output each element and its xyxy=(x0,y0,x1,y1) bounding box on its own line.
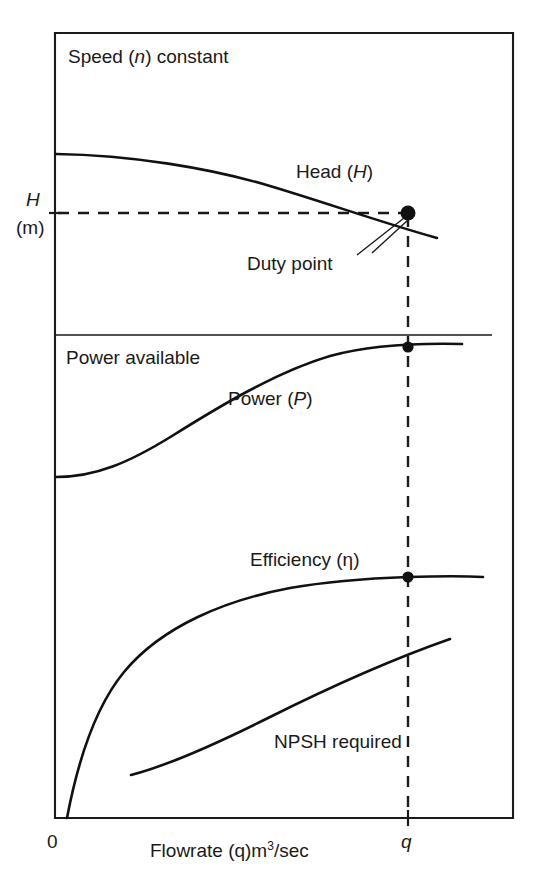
efficiency-curve xyxy=(67,576,483,818)
y-axis-label-symbol: H xyxy=(26,189,40,210)
npsh-label: NPSH required xyxy=(274,731,402,752)
x-axis-label-post: /sec xyxy=(274,840,309,861)
duty-point-label: Duty point xyxy=(247,253,333,274)
y-axis-label-units: (m) xyxy=(16,217,44,238)
duty-point-marker-power xyxy=(402,341,413,352)
x-axis-label: Flowrate (q)m3/sec xyxy=(150,839,309,861)
pump-characteristic-chart: Speed (n) constant Head (H) Duty point P… xyxy=(0,0,553,886)
duty-point-leader-1 xyxy=(357,218,404,255)
power-label: Power (P) xyxy=(228,388,312,409)
npsh-curve xyxy=(131,639,450,775)
power-available-label: Power available xyxy=(66,347,200,368)
head-label: Head (H) xyxy=(296,161,373,182)
x-tick-q: q xyxy=(401,831,412,852)
x-axis-label-pre: Flowrate (q)m xyxy=(150,840,267,861)
head-curve xyxy=(56,154,437,238)
x-tick-zero: 0 xyxy=(47,831,58,852)
efficiency-label: Efficiency (η) xyxy=(250,549,359,570)
duty-point-marker-efficiency xyxy=(402,571,413,582)
speed-note: Speed (n) constant xyxy=(68,46,229,67)
figure-container: Speed (n) constant Head (H) Duty point P… xyxy=(0,0,553,886)
